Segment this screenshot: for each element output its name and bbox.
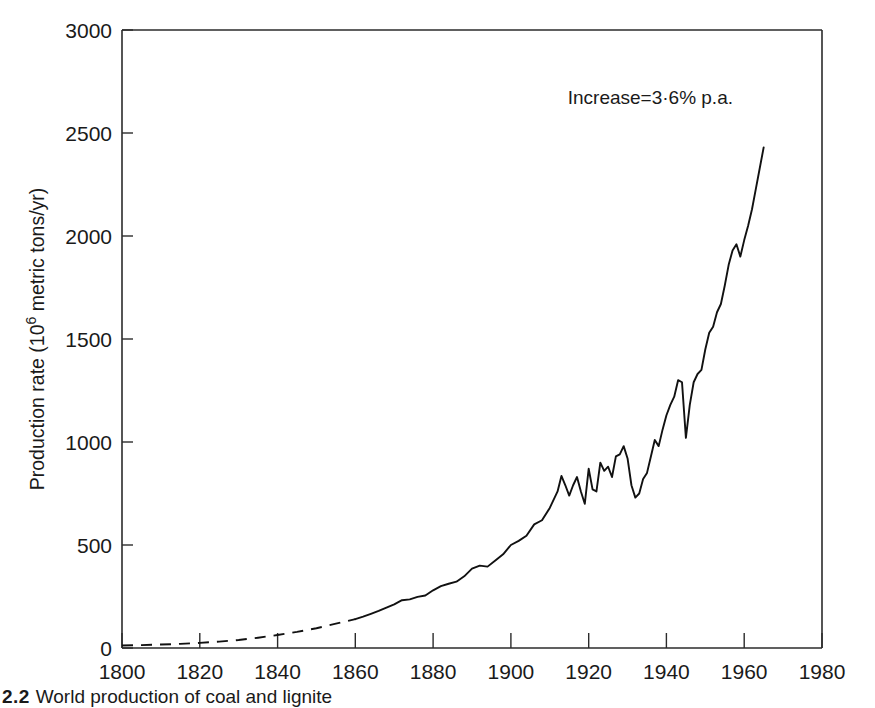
x-tick-label: 1940 <box>643 660 690 683</box>
production-rate-line-chart: 0 500 1000 1500 2000 2500 3000 1800 1820… <box>0 0 875 708</box>
chart-background <box>0 0 875 708</box>
y-tick-label: 3000 <box>65 19 112 42</box>
x-tick-label: 1900 <box>488 660 535 683</box>
svg-text:Production rate (106 metric to: Production rate (106 metric tons/yr) <box>23 188 48 491</box>
y-tick-label: 500 <box>77 534 112 557</box>
y-axis-title-prefix: Production rate (10 <box>26 324 48 490</box>
x-tick-label: 1980 <box>799 660 846 683</box>
x-tick-label: 1820 <box>176 660 223 683</box>
growth-rate-annotation: Increase=3·6% p.a. <box>568 87 733 108</box>
caption-line: 2.2 World production of coal and lignite <box>0 686 875 708</box>
caption-body: World production of coal and lignite <box>36 686 332 707</box>
y-tick-label: 2500 <box>65 122 112 145</box>
y-axis-title-suffix: metric tons/yr) <box>26 188 48 317</box>
caption-number: 2.2 <box>2 686 36 707</box>
y-tick-label: 1500 <box>65 328 112 351</box>
x-tick-label: 1920 <box>565 660 612 683</box>
y-tick-label: 0 <box>100 637 112 660</box>
y-tick-label: 2000 <box>65 225 112 248</box>
figure-caption: 2.2 World production of coal and lignite <box>0 686 875 708</box>
y-axis-title-exponent: 6 <box>23 316 39 324</box>
x-tick-label: 1800 <box>99 660 146 683</box>
y-tick-label: 1000 <box>65 431 112 454</box>
x-tick-label: 1960 <box>721 660 768 683</box>
x-tick-label: 1840 <box>254 660 301 683</box>
x-tick-label: 1860 <box>332 660 379 683</box>
figure-container: 0 500 1000 1500 2000 2500 3000 1800 1820… <box>0 0 875 708</box>
y-axis-title: Production rate (106 metric tons/yr) <box>23 188 48 491</box>
x-tick-label: 1880 <box>410 660 457 683</box>
